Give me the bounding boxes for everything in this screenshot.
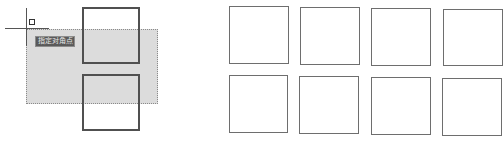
crosshair-cursor-icon xyxy=(26,8,27,46)
rectangle-object[interactable] xyxy=(371,8,431,66)
command-prompt-tooltip: 指定对角点 xyxy=(35,36,75,47)
rectangle-object[interactable] xyxy=(229,75,288,133)
rectangle-object[interactable] xyxy=(300,7,360,65)
rectangle-object[interactable] xyxy=(442,78,502,136)
rectangle-object[interactable] xyxy=(443,9,503,66)
rectangle-object-top[interactable] xyxy=(82,7,140,64)
rectangle-object[interactable] xyxy=(229,6,289,64)
pickbox-icon xyxy=(29,19,35,25)
rectangle-object-bottom[interactable] xyxy=(82,74,140,131)
rectangle-object[interactable] xyxy=(371,77,431,135)
crosshair-cursor-icon xyxy=(5,28,49,29)
rectangle-object[interactable] xyxy=(299,76,359,134)
